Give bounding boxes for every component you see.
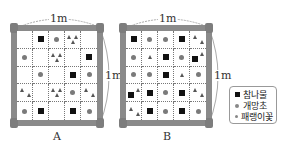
triangle-icon — [200, 93, 204, 97]
grid-cell — [174, 102, 190, 120]
grid-cell — [158, 49, 174, 67]
legend-item: 패랭이꽃 — [233, 111, 273, 122]
square-icon — [131, 36, 137, 42]
grid-cell — [142, 31, 158, 49]
triangle-icon — [193, 35, 197, 39]
corner-post — [205, 118, 213, 128]
grid-cell — [190, 84, 206, 102]
square-icon — [179, 36, 185, 42]
square-icon — [163, 72, 169, 78]
grid-cell — [142, 102, 158, 120]
triangle-cluster — [192, 35, 204, 44]
circle-icon — [163, 109, 168, 114]
circle-icon — [233, 104, 241, 108]
grid-cell — [126, 84, 142, 102]
triangle-icon — [193, 88, 197, 92]
circle-icon — [196, 109, 201, 114]
square-icon — [179, 108, 185, 114]
grid-cell — [174, 31, 190, 49]
circle-icon — [147, 37, 152, 42]
triangle-icon — [180, 73, 184, 77]
mixed-cluster — [128, 88, 140, 98]
circle-icon — [163, 37, 168, 42]
triangle-icon — [129, 107, 133, 111]
grid-cell — [142, 49, 158, 67]
frame-right — [206, 25, 212, 126]
circle-icon — [196, 72, 201, 77]
triangle-icon — [136, 88, 140, 92]
grid-cell — [158, 31, 174, 49]
grid-cell — [142, 67, 158, 85]
quadrat-label: B — [163, 130, 171, 143]
corner-post — [205, 23, 213, 33]
triangle-cluster — [128, 107, 140, 116]
mixed-cluster — [192, 52, 204, 62]
square-icon — [163, 54, 169, 60]
square-icon — [192, 56, 198, 62]
square-icon — [179, 90, 185, 96]
grid-cell — [158, 67, 174, 85]
grid-cell — [126, 102, 142, 120]
square-icon — [147, 90, 153, 96]
grid-cell — [190, 31, 206, 49]
height-label: 1m — [213, 70, 232, 81]
width-label: 1m — [158, 13, 177, 24]
triangle-icon — [200, 52, 204, 56]
square-icon — [233, 92, 241, 97]
square-icon — [147, 108, 153, 114]
grid-cell — [142, 84, 158, 102]
frame-bottom — [120, 120, 212, 126]
grid-cell — [190, 67, 206, 85]
grid-cell — [126, 49, 142, 67]
grid-cell — [174, 84, 190, 102]
circle-icon — [147, 72, 152, 77]
triangle-cluster — [192, 88, 204, 97]
grid-cell — [174, 67, 190, 85]
square-icon — [128, 92, 134, 98]
triangle-icon — [233, 115, 239, 118]
circle-icon — [131, 55, 136, 60]
legend-label: 패랭이꽃 — [241, 110, 273, 123]
legend: 참나물 개망초 패랭이꽃 — [229, 86, 277, 124]
grid-cell — [158, 102, 174, 120]
grid-cell — [190, 102, 206, 120]
quadrat-b: 1m 1m B — [0, 0, 230, 151]
circle-icon — [131, 72, 136, 77]
triangle-icon — [136, 112, 140, 116]
triangle-icon — [200, 40, 204, 44]
quadrat-grid — [126, 31, 206, 120]
grid-cell — [190, 49, 206, 67]
grid-cell — [174, 49, 190, 67]
circle-icon — [179, 55, 184, 60]
grid-cell — [126, 67, 142, 85]
circle-icon — [163, 90, 168, 95]
grid-cell — [158, 84, 174, 102]
triangle-icon — [148, 55, 152, 59]
grid-cell — [126, 31, 142, 49]
